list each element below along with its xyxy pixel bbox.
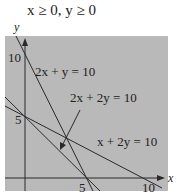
x-axis-label: x bbox=[167, 171, 174, 185]
y-tick-5: 5 bbox=[15, 112, 22, 127]
label-2x-plus-y: 2x + y = 10 bbox=[35, 64, 95, 79]
x-tick-5: 5 bbox=[79, 180, 86, 195]
y-tick-10: 10 bbox=[8, 50, 21, 65]
label-x-plus-2y: x + 2y = 10 bbox=[97, 134, 157, 149]
x-tick-10: 10 bbox=[142, 180, 155, 195]
shaded-region bbox=[5, 36, 168, 191]
y-axis-label: y bbox=[13, 20, 20, 34]
label-2x-plus-2y: 2x + 2y = 10 bbox=[70, 90, 137, 105]
chart: y x 10 5 5 10 2x + y = 10 2x + 2y = 10 x… bbox=[0, 0, 177, 196]
